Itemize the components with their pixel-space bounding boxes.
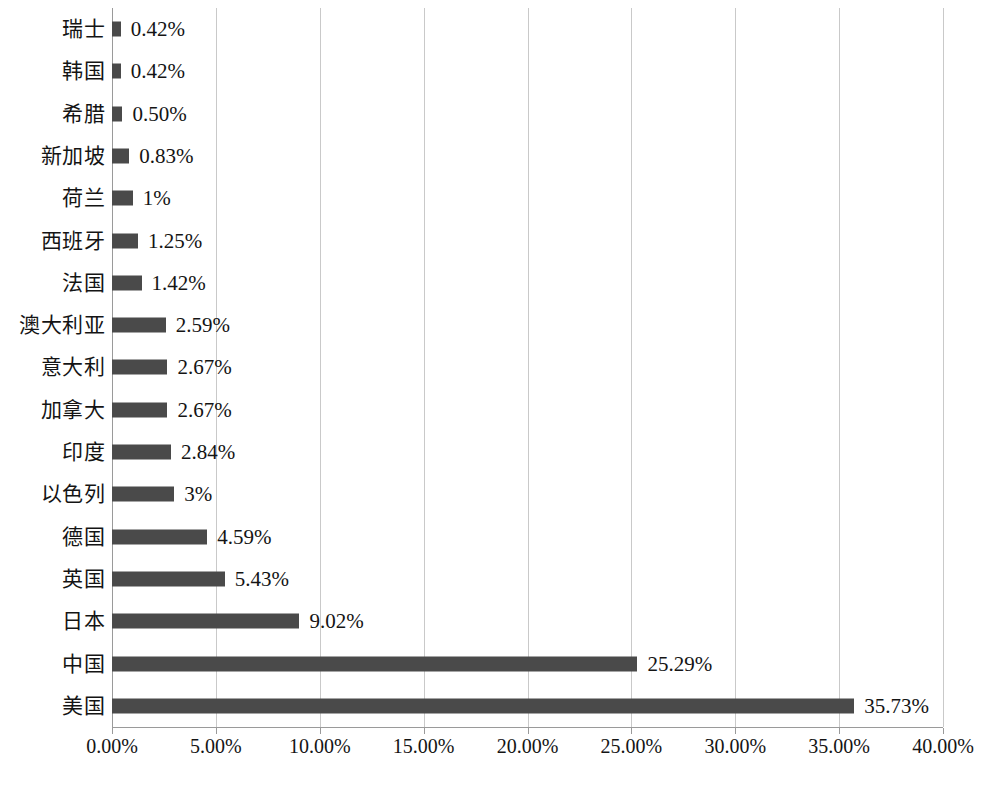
bar-row: 中国25.29% [0, 642, 984, 684]
bar-value-label: 0.42% [131, 19, 185, 40]
category-label: 荷兰 [0, 188, 105, 209]
x-tick-label: 30.00% [704, 736, 766, 756]
bar-value-label: 1% [143, 188, 171, 209]
bar[interactable] [112, 106, 122, 121]
bar-value-label: 2.67% [177, 357, 231, 378]
x-tick-mark [216, 728, 217, 734]
bar[interactable] [112, 149, 129, 164]
bar-row: 法国1.42% [0, 262, 984, 304]
bar[interactable] [112, 698, 854, 713]
x-tick-label: 40.00% [912, 736, 974, 756]
x-tick-mark [528, 728, 529, 734]
bar[interactable] [112, 318, 166, 333]
category-label: 印度 [0, 442, 105, 463]
bar-group: 1.42% [112, 272, 206, 293]
category-label: 瑞士 [0, 19, 105, 40]
bar-row: 西班牙1.25% [0, 219, 984, 261]
category-label: 美国 [0, 695, 105, 716]
category-label: 韩国 [0, 61, 105, 82]
bar[interactable] [112, 64, 121, 79]
bar-group: 0.50% [112, 103, 187, 124]
x-tick-mark [320, 728, 321, 734]
bar-row: 瑞士0.42% [0, 8, 984, 50]
bar[interactable] [112, 233, 138, 248]
bar-group: 9.02% [112, 611, 364, 632]
bar-value-label: 0.42% [131, 61, 185, 82]
bar-value-label: 2.67% [177, 399, 231, 420]
bar[interactable] [112, 402, 167, 417]
bar-value-label: 1.25% [148, 230, 202, 251]
category-label: 西班牙 [0, 230, 105, 251]
x-tick-mark [631, 728, 632, 734]
bar-group: 1.25% [112, 230, 202, 251]
bar[interactable] [112, 22, 121, 37]
bar-row: 荷兰1% [0, 177, 984, 219]
bar-group: 0.42% [112, 61, 185, 82]
category-label: 中国 [0, 653, 105, 674]
bar-value-label: 3% [184, 484, 212, 505]
bar[interactable] [112, 656, 637, 671]
category-label: 希腊 [0, 103, 105, 124]
x-tick-mark [839, 728, 840, 734]
bar-row: 美国35.73% [0, 685, 984, 727]
bar-row: 日本9.02% [0, 600, 984, 642]
bar-group: 35.73% [112, 695, 929, 716]
bar-value-label: 1.42% [152, 272, 206, 293]
bar-group: 2.59% [112, 315, 230, 336]
bar-group: 1% [112, 188, 171, 209]
category-label: 法国 [0, 272, 105, 293]
bar-group: 2.67% [112, 399, 232, 420]
bar-row: 新加坡0.83% [0, 135, 984, 177]
category-label: 加拿大 [0, 399, 105, 420]
x-tick-mark [424, 728, 425, 734]
bar-group: 3% [112, 484, 212, 505]
bar[interactable] [112, 275, 142, 290]
category-label: 意大利 [0, 357, 105, 378]
bar-value-label: 2.84% [181, 442, 235, 463]
category-label: 以色列 [0, 484, 105, 505]
bar[interactable] [112, 445, 171, 460]
bar-group: 25.29% [112, 653, 712, 674]
bar-row: 德国4.59% [0, 516, 984, 558]
x-tick-mark [735, 728, 736, 734]
bar-group: 4.59% [112, 526, 272, 547]
bar-value-label: 0.50% [132, 103, 186, 124]
bar-group: 0.83% [112, 146, 193, 167]
bar[interactable] [112, 529, 207, 544]
bar-rows: 瑞士0.42%韩国0.42%希腊0.50%新加坡0.83%荷兰1%西班牙1.25… [0, 8, 984, 727]
x-tick-label: 15.00% [393, 736, 455, 756]
bar-row: 以色列3% [0, 473, 984, 515]
category-label: 德国 [0, 526, 105, 547]
bar[interactable] [112, 571, 225, 586]
bar-group: 0.42% [112, 19, 185, 40]
bar-row: 意大利2.67% [0, 346, 984, 388]
bar-row: 希腊0.50% [0, 93, 984, 135]
bar-value-label: 0.83% [139, 146, 193, 167]
x-tick-label: 10.00% [289, 736, 351, 756]
bar[interactable] [112, 487, 174, 502]
category-label: 日本 [0, 611, 105, 632]
horizontal-bar-chart: 瑞士0.42%韩国0.42%希腊0.50%新加坡0.83%荷兰1%西班牙1.25… [0, 0, 984, 785]
bar-row: 加拿大2.67% [0, 389, 984, 431]
bar-value-label: 4.59% [217, 526, 271, 547]
bar-row: 韩国0.42% [0, 50, 984, 92]
bar-value-label: 35.73% [864, 695, 929, 716]
bar[interactable] [112, 360, 167, 375]
bar-value-label: 25.29% [647, 653, 712, 674]
x-tick-label: 0.00% [86, 736, 138, 756]
x-tick-label: 5.00% [190, 736, 242, 756]
bar[interactable] [112, 191, 133, 206]
bar-group: 5.43% [112, 568, 289, 589]
bar-row: 印度2.84% [0, 431, 984, 473]
category-label: 英国 [0, 568, 105, 589]
bar-value-label: 5.43% [235, 568, 289, 589]
bar-group: 2.67% [112, 357, 232, 378]
bar-group: 2.84% [112, 442, 235, 463]
x-axis-ticks: 0.00%5.00%10.00%15.00%20.00%25.00%30.00%… [0, 728, 984, 758]
category-label: 澳大利亚 [0, 315, 105, 336]
bar[interactable] [112, 614, 299, 629]
bar-row: 澳大利亚2.59% [0, 304, 984, 346]
x-tick-mark [112, 728, 113, 734]
bar-row: 英国5.43% [0, 558, 984, 600]
x-tick-label: 20.00% [497, 736, 559, 756]
